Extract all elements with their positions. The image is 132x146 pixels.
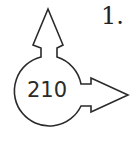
center-value: 210 [22,77,72,103]
diagram-canvas: 210 1. [0,0,132,146]
item-number: 1. [101,3,124,29]
